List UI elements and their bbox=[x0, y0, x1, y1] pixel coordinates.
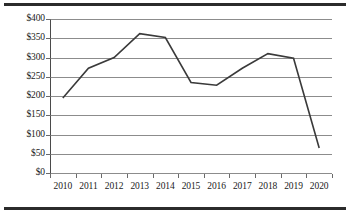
x-axis-tick-label: 2017 bbox=[229, 182, 255, 192]
x-axis-tick-mark bbox=[153, 174, 154, 178]
y-axis-tick-label: $250 bbox=[0, 72, 45, 82]
x-axis-tick-mark bbox=[306, 174, 307, 178]
y-axis-tick-label: $350 bbox=[0, 33, 45, 43]
x-axis-tick-label: 2016 bbox=[204, 182, 230, 192]
y-axis-tick-label: $200 bbox=[0, 91, 45, 101]
y-axis-tick-label: $400 bbox=[0, 14, 45, 24]
x-axis-tick-mark bbox=[50, 174, 51, 178]
x-axis-tick-mark bbox=[332, 174, 333, 178]
data-series-line bbox=[50, 19, 332, 174]
x-axis-tick-label: 2015 bbox=[178, 182, 204, 192]
x-axis-tick-label: 2014 bbox=[153, 182, 179, 192]
x-axis-tick-mark bbox=[281, 174, 282, 178]
x-axis-tick-label: 2011 bbox=[76, 182, 102, 192]
x-axis-tick-label: 2013 bbox=[127, 182, 153, 192]
line-chart: $0$50$100$150$200$250$300$350$400 201020… bbox=[0, 10, 350, 202]
x-axis-tick-label: 2018 bbox=[255, 182, 281, 192]
x-axis-tick-mark bbox=[204, 174, 205, 178]
y-axis-tick-label: $0 bbox=[0, 168, 45, 178]
x-axis-tick-label: 2019 bbox=[281, 182, 307, 192]
y-axis-tick-label: $150 bbox=[0, 110, 45, 120]
x-axis-tick-mark bbox=[178, 174, 179, 178]
chart-figure: $0$50$100$150$200$250$300$350$400 201020… bbox=[0, 0, 350, 213]
x-axis-tick-label: 2010 bbox=[50, 182, 76, 192]
x-axis-tick-label: 2012 bbox=[101, 182, 127, 192]
y-axis-tick-label: $300 bbox=[0, 53, 45, 63]
x-axis-tick-mark bbox=[255, 174, 256, 178]
bottom-frame-rule bbox=[4, 207, 346, 210]
x-axis-tick-mark bbox=[101, 174, 102, 178]
plot-area: 2010201120122013201420152016201720182019… bbox=[50, 19, 332, 173]
x-axis-tick-mark bbox=[229, 174, 230, 178]
y-axis-tick-label: $50 bbox=[0, 149, 45, 159]
top-frame-rule bbox=[4, 3, 346, 6]
x-axis-tick-label: 2020 bbox=[306, 182, 332, 192]
x-axis-tick-mark bbox=[127, 174, 128, 178]
y-axis-tick-label: $100 bbox=[0, 130, 45, 140]
x-axis-tick-mark bbox=[76, 174, 77, 178]
